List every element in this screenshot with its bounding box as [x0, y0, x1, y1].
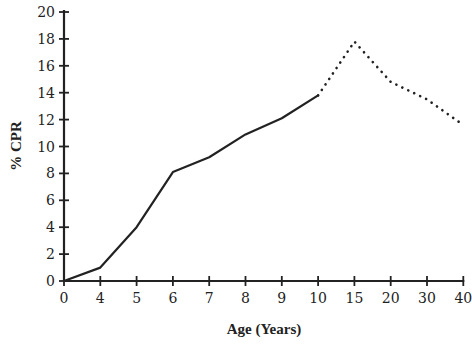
y-axis-title: % CPR [8, 121, 24, 171]
y-tick-label: 10 [37, 139, 55, 155]
x-tick-label: 10 [309, 290, 327, 306]
x-tick-label: 9 [277, 290, 286, 306]
x-tick-label: 20 [382, 290, 400, 306]
y-tick-label: 20 [37, 4, 55, 20]
x-axis: 04567891015203040 [60, 276, 472, 306]
x-tick-label: 8 [241, 290, 250, 306]
x-tick-label: 15 [345, 290, 363, 306]
x-tick-label: 40 [454, 290, 472, 306]
x-tick-label: 5 [132, 290, 141, 306]
y-tick-label: 2 [46, 246, 55, 262]
x-tick-label: 0 [60, 290, 69, 306]
y-tick-label: 12 [37, 112, 55, 128]
cpr-line-chart: 02468101214161820 04567891015203040 Age … [0, 0, 472, 347]
series-observed-line [64, 95, 318, 281]
data-series [64, 42, 463, 281]
x-tick-label: 7 [205, 290, 214, 306]
series-projected-line [318, 42, 463, 125]
y-tick-label: 18 [37, 31, 55, 47]
y-tick-label: 14 [37, 85, 55, 101]
y-tick-label: 16 [37, 58, 55, 74]
x-tick-label: 30 [418, 290, 436, 306]
y-tick-label: 4 [46, 219, 55, 235]
x-tick-label: 6 [168, 290, 177, 306]
x-tick-label: 4 [96, 290, 105, 306]
y-tick-label: 6 [46, 192, 55, 208]
x-axis-title: Age (Years) [227, 321, 302, 338]
y-tick-label: 0 [46, 273, 55, 289]
y-axis: 02468101214161820 [37, 4, 69, 289]
y-tick-label: 8 [46, 165, 55, 181]
